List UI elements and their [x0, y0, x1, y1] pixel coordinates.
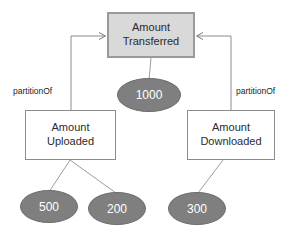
- edge-label-partitionof-right: partitionOf: [236, 86, 275, 96]
- node-amount-downloaded-line1: Amount: [212, 121, 250, 135]
- edge-uploaded-to-200: [70, 160, 116, 193]
- node-amount-uploaded[interactable]: Amount Uploaded: [25, 110, 116, 160]
- node-value-200[interactable]: 200: [88, 192, 146, 225]
- node-value-300-label: 300: [187, 202, 207, 216]
- node-amount-downloaded-line2: Downloaded: [200, 135, 261, 149]
- node-value-300[interactable]: 300: [168, 192, 226, 225]
- node-value-1000[interactable]: 1000: [117, 78, 181, 112]
- node-amount-uploaded-line2: Uploaded: [47, 135, 94, 149]
- edge-uploaded-to-root: [71, 36, 104, 110]
- node-value-1000-label: 1000: [136, 88, 163, 102]
- node-amount-transferred[interactable]: Amount Transferred: [107, 12, 195, 58]
- node-value-200-label: 200: [107, 202, 127, 216]
- node-value-500-label: 500: [39, 200, 59, 214]
- diagram-canvas: Amount Transferred Amount Uploaded Amoun…: [0, 0, 299, 239]
- node-value-500[interactable]: 500: [20, 190, 78, 223]
- edge-uploaded-to-500: [49, 160, 70, 192]
- node-amount-transferred-line1: Amount: [132, 21, 170, 35]
- edge-label-partitionof-left: partitionOf: [13, 86, 52, 96]
- node-amount-transferred-line2: Transferred: [123, 35, 179, 49]
- node-amount-downloaded[interactable]: Amount Downloaded: [187, 110, 275, 160]
- edge-root-to-1000: [149, 58, 151, 80]
- edge-downloaded-to-300: [198, 160, 223, 193]
- node-amount-uploaded-line1: Amount: [52, 121, 90, 135]
- edge-downloaded-to-root: [198, 36, 231, 110]
